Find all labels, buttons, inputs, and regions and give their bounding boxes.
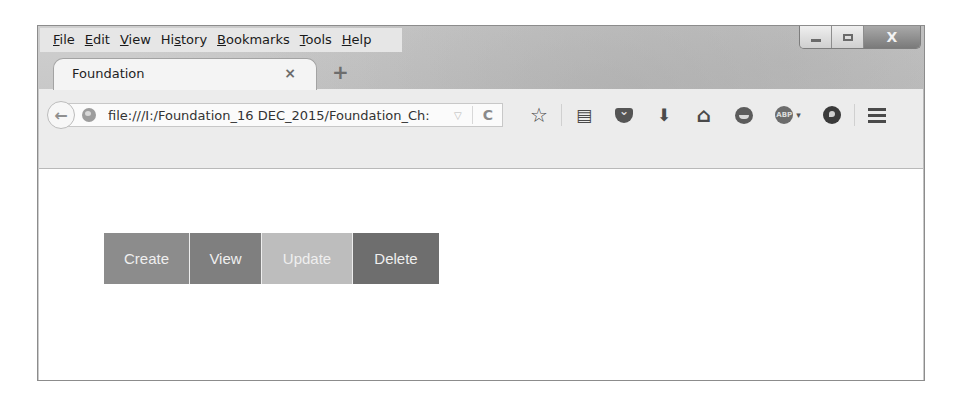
- navigation-bar: file:///I:/Foundation_16 DEC_2015/Founda…: [39, 89, 923, 169]
- tab-close-icon[interactable]: ×: [284, 65, 296, 81]
- window-controls: X: [799, 26, 921, 49]
- reading-list-icon[interactable]: ▤: [564, 105, 604, 125]
- extension-icon: [823, 106, 841, 124]
- close-icon: X: [887, 29, 898, 45]
- hamburger-icon: [868, 108, 886, 123]
- maximize-icon: [843, 34, 853, 41]
- toolbar-icons: ☆ ▤ ⬇ ⌂ ABP▾: [519, 103, 897, 127]
- maximize-button[interactable]: [832, 26, 864, 48]
- menu-history[interactable]: History: [156, 28, 212, 52]
- chat-smiley-icon: [735, 107, 753, 124]
- adblock-button[interactable]: ABP▾: [764, 106, 812, 124]
- browser-window: File Edit View History Bookmarks Tools H…: [37, 25, 925, 381]
- bookmark-star-icon[interactable]: ☆: [519, 103, 559, 127]
- back-button[interactable]: ←: [47, 101, 75, 129]
- url-text[interactable]: file:///I:/Foundation_16 DEC_2015/Founda…: [108, 108, 448, 123]
- extension-button[interactable]: [812, 106, 852, 124]
- new-tab-button[interactable]: +: [332, 60, 349, 84]
- menu-tools[interactable]: Tools: [295, 28, 337, 52]
- menu-bookmarks[interactable]: Bookmarks: [212, 28, 295, 52]
- close-window-button[interactable]: X: [864, 26, 920, 48]
- url-bar[interactable]: file:///I:/Foundation_16 DEC_2015/Founda…: [63, 103, 503, 127]
- site-identity-icon[interactable]: [82, 108, 96, 122]
- back-arrow-icon: ←: [54, 106, 67, 125]
- delete-button[interactable]: Delete: [353, 233, 439, 284]
- menu-edit[interactable]: Edit: [80, 28, 115, 52]
- toolbar-separator: [854, 104, 855, 126]
- pocket-icon: [615, 108, 633, 123]
- tab-title: Foundation: [72, 66, 145, 81]
- home-icon[interactable]: ⌂: [684, 103, 724, 127]
- chat-button[interactable]: [724, 107, 764, 124]
- view-button[interactable]: View: [190, 233, 262, 284]
- adblock-caret-icon: ▾: [796, 110, 801, 120]
- url-separator: [472, 106, 473, 124]
- page-content: Create View Update Delete: [39, 169, 923, 380]
- download-icon[interactable]: ⬇: [644, 105, 684, 125]
- menu-bar: File Edit View History Bookmarks Tools H…: [40, 28, 402, 52]
- create-button[interactable]: Create: [104, 233, 190, 284]
- menu-button[interactable]: [857, 108, 897, 123]
- menu-view[interactable]: View: [115, 28, 156, 52]
- toolbar-separator: [561, 104, 562, 126]
- pocket-button[interactable]: [604, 108, 644, 123]
- reload-icon[interactable]: C: [483, 107, 493, 123]
- update-button[interactable]: Update: [262, 233, 353, 284]
- menu-help[interactable]: Help: [337, 28, 377, 52]
- history-dropdown-icon[interactable]: ▽: [454, 110, 462, 121]
- tab-foundation[interactable]: Foundation ×: [53, 58, 317, 90]
- crud-button-group: Create View Update Delete: [104, 233, 439, 284]
- adblock-icon: ABP: [775, 106, 793, 124]
- minimize-button[interactable]: [800, 26, 832, 48]
- menu-file[interactable]: File: [48, 28, 80, 52]
- minimize-icon: [811, 39, 821, 42]
